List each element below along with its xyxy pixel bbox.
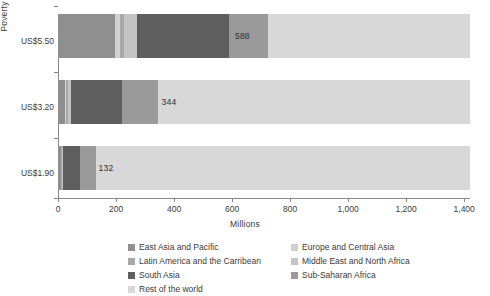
legend-column-1: East Asia and PacificLatin America and t…	[128, 241, 261, 296]
legend-item-label: South Asia	[139, 271, 180, 280]
legend-item-label: Sub-Saharan Africa	[302, 271, 376, 280]
bar-segment[interactable]	[58, 14, 115, 58]
bar-segment[interactable]	[124, 14, 137, 58]
chart-legend: East Asia and PacificLatin America and t…	[128, 241, 490, 296]
legend-item[interactable]: Europe and Central Asia	[291, 241, 410, 254]
legend-swatch-icon	[128, 286, 135, 293]
x-axis-tick-label: 200	[96, 204, 136, 214]
bar-segment[interactable]	[63, 146, 80, 190]
x-axis-title: Millions	[0, 219, 490, 229]
y-axis-tick	[54, 6, 58, 7]
x-axis-tick	[290, 198, 291, 202]
x-axis-tick	[406, 198, 407, 202]
x-axis-tick	[116, 198, 117, 202]
legend-item[interactable]: Middle East and North Africa	[291, 255, 410, 268]
x-axis-tick-label: 1,000	[328, 204, 368, 214]
legend-swatch-icon	[128, 244, 135, 251]
x-axis-tick	[174, 198, 175, 202]
legend-swatch-icon	[291, 272, 298, 279]
stacked-bar[interactable]	[58, 80, 470, 124]
stacked-bar[interactable]	[58, 146, 470, 190]
legend-column-2: Europe and Central AsiaMiddle East and N…	[291, 241, 410, 283]
x-axis-tick-label: 0	[38, 204, 78, 214]
x-axis-tick-label: 800	[270, 204, 310, 214]
y-axis-tick	[54, 138, 58, 139]
bar-segment[interactable]	[268, 14, 470, 58]
bar-segment[interactable]	[122, 80, 158, 124]
bar-value-label: 588	[235, 31, 250, 41]
x-axis-tick-label: 600	[212, 204, 252, 214]
x-axis-tick	[232, 198, 233, 202]
legend-item[interactable]: East Asia and Pacific	[128, 241, 261, 254]
bar-segment[interactable]	[71, 80, 122, 124]
x-axis-tick-label: 1,400	[444, 204, 484, 214]
legend-item-label: Europe and Central Asia	[302, 243, 394, 252]
legend-swatch-icon	[128, 258, 135, 265]
legend-item[interactable]: Latin America and the Carribean	[128, 255, 261, 268]
legend-item[interactable]: South Asia	[128, 269, 261, 282]
x-axis-tick	[348, 198, 349, 202]
legend-item-label: East Asia and Pacific	[139, 243, 218, 252]
legend-swatch-icon	[291, 244, 298, 251]
bar-row: 344	[0, 80, 490, 124]
x-axis-tick	[464, 198, 465, 202]
x-axis-line	[58, 198, 470, 199]
x-axis-tick-label: 400	[154, 204, 194, 214]
y-axis-tick	[54, 72, 58, 73]
legend-item-label: Middle East and North Africa	[302, 257, 410, 266]
legend-item[interactable]: Rest of the world	[128, 283, 261, 296]
legend-item[interactable]: Sub-Saharan Africa	[291, 269, 410, 282]
x-axis-tick	[58, 198, 59, 202]
stacked-bar[interactable]	[58, 14, 470, 58]
legend-swatch-icon	[128, 272, 135, 279]
legend-item-label: Latin America and the Carribean	[139, 257, 261, 266]
bar-segment[interactable]	[58, 80, 65, 124]
bar-row: 588	[0, 14, 490, 58]
legend-swatch-icon	[291, 258, 298, 265]
poverty-stacked-bar-chart: Poverty lines US$5.50US$3.20US$1.90 5883…	[0, 0, 490, 296]
bar-value-label: 132	[99, 163, 114, 173]
bar-segment[interactable]	[158, 80, 470, 124]
bar-row: 132	[0, 146, 490, 190]
bar-segment[interactable]	[80, 146, 96, 190]
bar-segment[interactable]	[137, 14, 229, 58]
legend-item-label: Rest of the world	[139, 285, 203, 294]
bar-segment[interactable]	[96, 146, 470, 190]
x-axis-tick-label: 1,200	[386, 204, 426, 214]
bar-value-label: 344	[162, 97, 177, 107]
